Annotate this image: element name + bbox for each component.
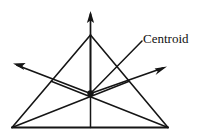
centroid-diagram: Centroid — [0, 0, 206, 138]
centroid-point-marker — [87, 90, 93, 96]
arrow-shaft-up-left — [17, 65, 91, 93]
arrow-shaft-up-right — [91, 68, 164, 94]
triangle-centroid-drawing — [0, 0, 206, 138]
centroid-label: Centroid — [143, 32, 189, 45]
arrowhead-up-left-icon — [13, 63, 26, 70]
centroid-axis-arrows — [17, 14, 163, 94]
